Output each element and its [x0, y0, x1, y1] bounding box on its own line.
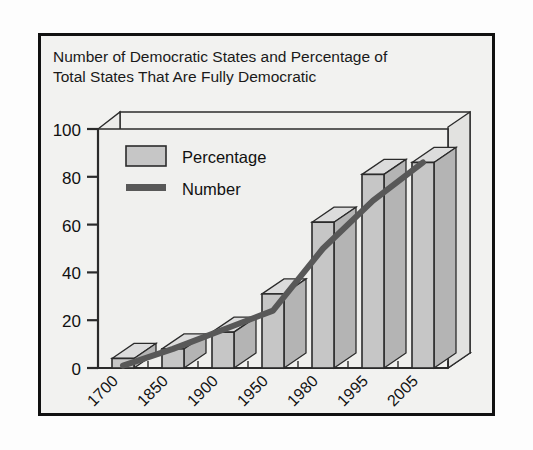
x-label-1995: 1995: [334, 372, 371, 409]
x-label-2005: 2005: [384, 372, 421, 409]
bar-side-face: [434, 147, 456, 368]
x-label-1950: 1950: [234, 372, 271, 409]
y-tick-label-0: 0: [72, 360, 81, 379]
figure-canvas: Number of Democratic States and Percenta…: [0, 0, 533, 450]
bar-1980: [312, 207, 356, 368]
chart-title-line1: Number of Democratic States and Percenta…: [53, 48, 388, 65]
x-label-1980: 1980: [284, 372, 321, 409]
legend-label-number: Number: [182, 180, 241, 198]
chart-svg: Number of Democratic States and Percenta…: [0, 0, 533, 450]
x-label-1700: 1700: [84, 372, 121, 409]
legend-line-number: [126, 184, 166, 191]
chart-title-line2: Total States That Are Fully Democratic: [53, 68, 317, 85]
bar-front-face: [212, 332, 234, 368]
y-tick-label-80: 80: [62, 169, 81, 188]
x-axis-category-labels: 1700185019001950198019952005: [84, 372, 421, 409]
y-axis-ticks: 020406080100: [53, 121, 98, 379]
y-tick-label-20: 20: [62, 312, 81, 331]
legend-swatch-percentage: [126, 146, 166, 166]
x-label-1900: 1900: [184, 372, 221, 409]
legend-label-percentage: Percentage: [182, 148, 266, 166]
x-label-1850: 1850: [134, 372, 171, 409]
y-tick-label-100: 100: [53, 121, 81, 140]
y-tick-label-40: 40: [62, 264, 81, 283]
y-tick-label-60: 60: [62, 217, 81, 236]
bar-2005: [412, 147, 456, 368]
bar-front-face: [412, 162, 434, 368]
